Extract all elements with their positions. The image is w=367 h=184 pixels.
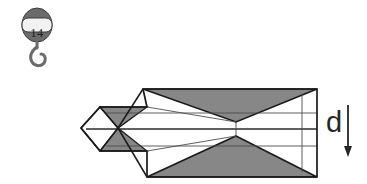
hook-pulley-icon [22,8,52,66]
pulley-label-plate [22,18,52,32]
diagram-canvas [0,0,367,184]
direction-label: d [326,108,342,137]
mesh-body [81,89,317,177]
direction-arrow [344,105,352,157]
arrow-head [344,146,352,157]
hook-curve [31,47,46,66]
